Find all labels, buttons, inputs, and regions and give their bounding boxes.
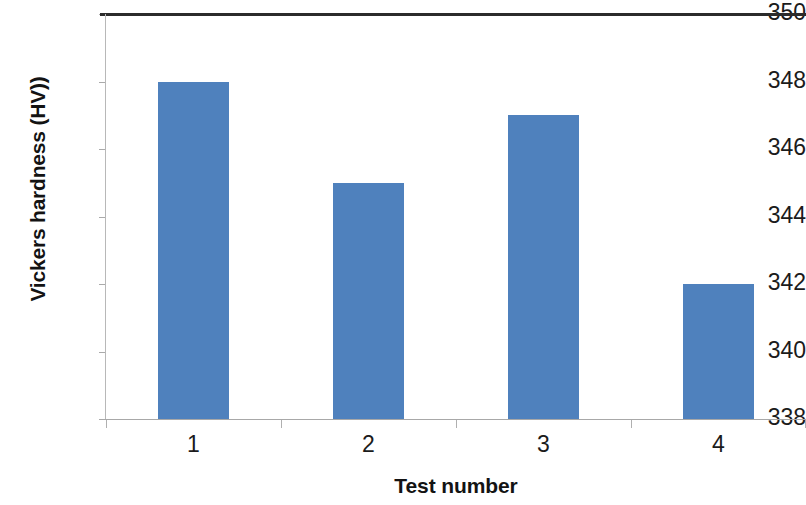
- x-axis-tick: [631, 420, 632, 428]
- bar: [333, 183, 405, 419]
- bar: [508, 115, 580, 419]
- y-axis-tick-label: 344: [718, 204, 806, 227]
- x-axis-tick-label: 1: [106, 432, 281, 457]
- x-axis-tick: [281, 420, 282, 428]
- vickers-hardness-bar-chart: Vickers hardness (HV)) 35034834634434234…: [0, 0, 806, 505]
- x-axis-tick-label: 3: [456, 432, 631, 457]
- x-axis-tick-label: 2: [281, 432, 456, 457]
- plot-top-border: [100, 13, 806, 16]
- y-axis-tick-label: 348: [718, 69, 806, 92]
- y-axis-tick-label: 346: [718, 136, 806, 159]
- y-axis-line: [105, 14, 106, 420]
- x-axis-line: [100, 419, 806, 420]
- x-axis-tick-label: 4: [631, 432, 806, 457]
- x-axis-tick: [456, 420, 457, 428]
- bar: [158, 82, 230, 420]
- x-axis-tick: [106, 420, 107, 428]
- bar: [683, 284, 755, 419]
- y-axis-title: Vickers hardness (HV)): [26, 14, 50, 364]
- x-axis-title: Test number: [106, 474, 806, 498]
